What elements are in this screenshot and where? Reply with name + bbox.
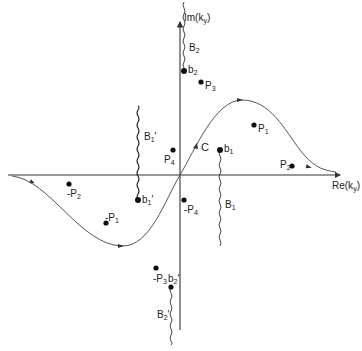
contour-arrow xyxy=(237,98,243,102)
label-b2-prime: b2' xyxy=(168,274,179,285)
label-branch-b2-prime: B2' xyxy=(157,310,170,321)
point-p4 xyxy=(170,147,175,152)
point-b2-prime xyxy=(168,284,173,289)
label-p4: P4 xyxy=(164,155,175,166)
contour-arrow xyxy=(118,244,124,248)
label-p3: P3 xyxy=(205,81,216,92)
point-b1 xyxy=(217,147,223,153)
branch-cut-b1-prime xyxy=(137,106,139,200)
point-neg-p3 xyxy=(153,265,158,270)
label-p1: P1 xyxy=(258,124,269,135)
label-branch-b2: B2 xyxy=(189,43,200,54)
point-p3 xyxy=(198,79,203,84)
label-neg-p3: -P3 xyxy=(153,274,167,285)
contour-arrow xyxy=(306,164,313,169)
branch-cut-b2-prime xyxy=(170,287,172,345)
label-neg-p4: -P4 xyxy=(184,205,198,216)
contour-label: C xyxy=(201,142,209,153)
label-b1: b1 xyxy=(224,144,233,155)
label-neg-p2: -P2 xyxy=(67,189,81,200)
point-b1-prime xyxy=(135,197,141,203)
label-p2: P2 xyxy=(280,160,291,171)
label-neg-p1: -P1 xyxy=(105,213,119,224)
label-b2: b2 xyxy=(188,65,197,76)
label-branch-b1: B1 xyxy=(225,200,236,211)
point-p1 xyxy=(251,122,256,127)
point-neg-p2 xyxy=(66,181,71,186)
imaginary-axis-label: Im(ky) xyxy=(184,13,210,24)
complex-plane-diagram xyxy=(0,0,362,351)
label-branch-b1-prime: B1' xyxy=(144,132,157,143)
point-neg-p4 xyxy=(181,197,186,202)
contour-c xyxy=(12,100,336,246)
real-axis-label: Re(ky) xyxy=(332,181,360,192)
point-b2 xyxy=(181,68,187,74)
branch-cut-b1 xyxy=(219,150,221,246)
label-b1-prime: b1' xyxy=(142,195,153,206)
